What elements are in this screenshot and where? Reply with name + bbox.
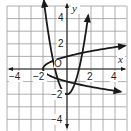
y-tick-label-4: 4: [58, 12, 64, 23]
y-tick-label-neg4: −4: [51, 114, 63, 125]
coordinate-graph: y x O −4 −2 2 4 4 2 −2 −4: [0, 0, 131, 131]
parabola-y-equals-2x-squared-minus-2: [44, 0, 88, 94]
x-tick-label-neg4: −4: [9, 71, 21, 82]
origin-label: O: [54, 58, 62, 69]
y-axis-label: y: [71, 2, 77, 14]
y-tick-label-neg2: −2: [51, 89, 63, 100]
x-tick-label-2: 2: [87, 71, 93, 82]
x-axis-label: x: [117, 53, 123, 65]
x-tick-label-neg2: −2: [33, 71, 45, 82]
y-tick-label-2: 2: [58, 38, 64, 49]
x-tick-label-4: 4: [111, 71, 117, 82]
